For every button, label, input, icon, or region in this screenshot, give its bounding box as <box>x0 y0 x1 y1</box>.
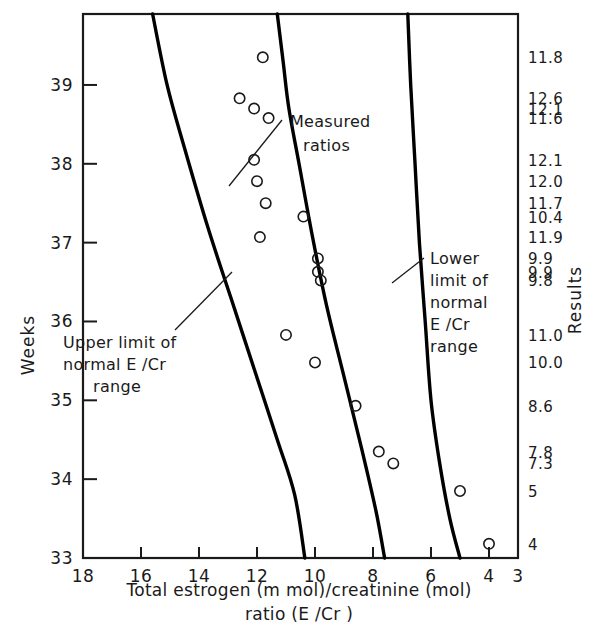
annotation-upper-limit-line3: range <box>93 377 141 396</box>
result-value: 11.9 <box>528 229 563 247</box>
annotation-upper-limit-line2: normal E /Cr <box>63 355 166 374</box>
annotation-lower-limit-line3: normal <box>430 293 488 312</box>
result-value: 11.6 <box>528 110 563 128</box>
y-tick-label: 36 <box>50 311 73 331</box>
right-axis-title: Results <box>565 266 585 334</box>
chart-background <box>0 0 597 633</box>
y-tick-label: 33 <box>50 548 73 568</box>
y-tick-label: 34 <box>50 469 73 489</box>
annotation-lower-limit-line4: E /Cr <box>430 315 470 334</box>
annotation-lower-limit-line2: limit of <box>430 271 488 290</box>
y-tick-label: 38 <box>50 154 73 174</box>
result-value: 8.6 <box>528 398 553 416</box>
x-tick-label: 18 <box>72 566 95 586</box>
annotation-lower-limit-line1: Lower <box>430 249 480 268</box>
result-value: 9.8 <box>528 272 553 290</box>
annotation-lower-limit-line5: range <box>430 337 478 356</box>
x-axis-title-line1: Total estrogen (m mol)/creatinine (mol) <box>125 580 471 600</box>
result-value: 12.0 <box>528 173 563 191</box>
result-value: 7.3 <box>528 455 553 473</box>
result-value: 10.4 <box>528 209 563 227</box>
annotation-measured-ratios-line1: Measured <box>290 112 371 131</box>
x-tick-label: 3 <box>512 566 523 586</box>
y-tick-label: 37 <box>50 233 73 253</box>
y-tick-label: 39 <box>50 75 73 95</box>
chart-root: 18161412108643 33343536373839 11.812.612… <box>0 0 597 633</box>
result-value: 10.0 <box>528 354 563 372</box>
result-value: 11.8 <box>528 49 563 67</box>
result-value: 4 <box>528 536 538 554</box>
result-value: 5 <box>528 483 538 501</box>
result-value: 12.1 <box>528 152 563 170</box>
estrogen-creatinine-scatter-chart: 18161412108643 33343536373839 11.812.612… <box>0 0 597 633</box>
annotation-upper-limit-line1: Upper limit of <box>63 333 177 352</box>
annotation-measured-ratios-line2: ratios <box>303 136 350 155</box>
y-tick-label: 35 <box>50 390 73 410</box>
y-axis-title: Weeks <box>18 315 38 375</box>
result-value: 11.0 <box>528 327 563 345</box>
x-tick-label: 4 <box>483 566 494 586</box>
x-axis-title-line2: ratio (E /Cr ) <box>245 604 353 624</box>
